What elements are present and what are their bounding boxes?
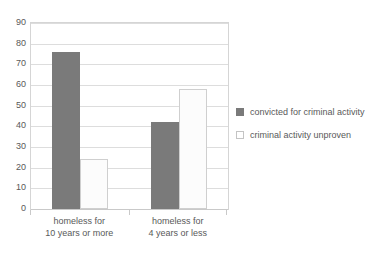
x-category-label-line: homeless for xyxy=(30,215,129,227)
bar-chart: 9080706050403020100 homeless for10 years… xyxy=(0,0,367,255)
y-tick-label-40: 40 xyxy=(16,121,26,130)
y-tick-label-0: 0 xyxy=(21,204,26,213)
y-axis: 9080706050403020100 xyxy=(0,22,26,210)
y-tick-label-20: 20 xyxy=(16,162,26,171)
bar-convicted-group-2 xyxy=(151,122,179,209)
y-tick-label-60: 60 xyxy=(16,80,26,89)
gridline-80 xyxy=(31,44,228,45)
y-tick-label-90: 90 xyxy=(16,18,26,27)
bar-unproven-group-2 xyxy=(179,89,207,209)
y-tick-label-50: 50 xyxy=(16,100,26,109)
y-tick-label-80: 80 xyxy=(16,38,26,47)
y-tick-label-10: 10 xyxy=(16,183,26,192)
x-category-label-line: 10 years or more xyxy=(30,227,129,239)
legend-entry-2[interactable]: criminal activity unproven xyxy=(236,130,364,140)
legend-label: convicted for criminal activity xyxy=(250,107,365,117)
filled-dark-square-icon xyxy=(236,108,244,116)
y-tick-label-30: 30 xyxy=(16,142,26,151)
x-axis: homeless for10 years or morehomeless for… xyxy=(30,215,229,249)
x-category-label-1: homeless for10 years or more xyxy=(30,215,129,239)
plot-area xyxy=(30,22,229,210)
bar-convicted-group-1 xyxy=(52,52,80,209)
y-tick-label-70: 70 xyxy=(16,59,26,68)
legend-label: criminal activity unproven xyxy=(250,130,351,140)
gridline-90 xyxy=(31,23,228,24)
x-category-label-line: homeless for xyxy=(129,215,228,227)
x-category-label-2: homeless for4 years or less xyxy=(129,215,228,239)
bar-unproven-group-1 xyxy=(80,159,108,209)
legend-entry-1[interactable]: convicted for criminal activity xyxy=(236,107,364,117)
outlined-white-square-icon xyxy=(236,131,244,139)
legend: convicted for criminal activitycriminal … xyxy=(236,107,364,153)
x-category-label-line: 4 years or less xyxy=(129,227,228,239)
